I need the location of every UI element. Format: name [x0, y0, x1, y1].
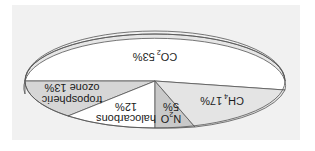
svg-text:halocarbons: halocarbons [96, 113, 156, 125]
label-co2: CO253% [133, 49, 178, 63]
svg-text:12%: 12% [115, 101, 137, 113]
svg-text:CO253%: CO253% [133, 49, 178, 63]
svg-text:tropospheric: tropospheric [41, 94, 102, 106]
pie-chart: CO253% CH417% N2O 5% halocarbons 12% tro… [0, 0, 315, 151]
svg-text:ozone 13%: ozone 13% [44, 82, 99, 94]
svg-text:CH417%: CH417% [200, 93, 244, 107]
label-ozone: tropospheric ozone 13% [41, 82, 102, 106]
label-ch4: CH417% [200, 93, 244, 107]
svg-text:5%: 5% [163, 101, 179, 113]
